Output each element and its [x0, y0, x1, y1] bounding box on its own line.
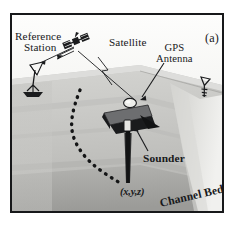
- bank-marker-triangle: [201, 77, 210, 86]
- label-satellite: Satellite: [109, 37, 147, 48]
- bank-marker-icon: [201, 77, 210, 97]
- label-gps-antenna: GPSAntenna: [156, 42, 193, 65]
- gps-antenna-line1: GPS: [164, 42, 184, 53]
- label-sounder: Sounder: [143, 153, 185, 165]
- figure-panel-a: ReferenceStation Satellite GPSAntenna So…: [10, 13, 224, 213]
- label-reference-station: ReferenceStation: [15, 31, 61, 54]
- label-bed-coordinates: (x,y,z): [120, 187, 144, 198]
- gps-antenna-line2: Antenna: [156, 53, 193, 64]
- figure-root: ReferenceStation Satellite GPSAntenna So…: [0, 0, 237, 228]
- reference-station-line1: Reference: [15, 30, 61, 42]
- reference-station-line2: Station: [15, 42, 61, 53]
- panel-letter-label: (a): [205, 32, 219, 44]
